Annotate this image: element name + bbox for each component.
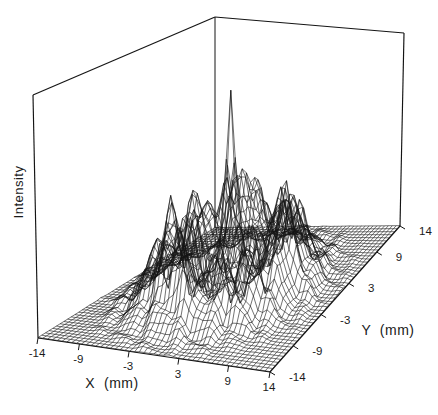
y-tick-label: 9 xyxy=(396,251,402,263)
y-axis-label: Y (mm) xyxy=(361,322,414,338)
x-tick-label: 14 xyxy=(263,381,276,393)
y-tick-label: -3 xyxy=(340,314,350,326)
x-tick-label: -3 xyxy=(123,360,133,372)
x-tick-label: 9 xyxy=(224,375,230,387)
plot-box-frame xyxy=(128,351,129,357)
x-axis-label: X (mm) xyxy=(85,375,138,391)
plot-box-frame xyxy=(269,372,270,378)
plot-box-frame xyxy=(37,338,38,344)
plot-box-frame xyxy=(33,95,38,338)
plot-box-frame xyxy=(78,344,79,350)
x-tick-label: -9 xyxy=(73,353,83,365)
mesh-line-x xyxy=(227,226,366,365)
plot-box-frame xyxy=(400,33,404,226)
plot-box-frame xyxy=(33,17,215,95)
plot-box-frame xyxy=(293,346,298,349)
x-tick-label: 3 xyxy=(175,368,181,380)
x-tick-label: -14 xyxy=(29,347,46,359)
plot-box-frame xyxy=(228,366,229,372)
plot-box-frame xyxy=(377,252,382,255)
z-axis-label-intensity: Intensity xyxy=(11,166,26,219)
plot-box-frame xyxy=(321,315,326,318)
plot-box-frame xyxy=(270,372,275,375)
y-tick-label: -14 xyxy=(289,371,306,383)
intensity-surface-figure: -14-9-33914-14-9-33914 Intensity X (mm) … xyxy=(0,0,438,415)
plot-box-frame xyxy=(178,359,179,365)
y-tick-label: 14 xyxy=(419,225,432,237)
plot-box-frame xyxy=(349,283,354,286)
plot-box-frame xyxy=(215,17,404,33)
plot-box-frame xyxy=(400,226,405,229)
surface-plot-canvas: -14-9-33914-14-9-33914 xyxy=(0,0,438,415)
y-tick-label: 3 xyxy=(368,282,374,294)
y-tick-label: -9 xyxy=(312,345,322,357)
